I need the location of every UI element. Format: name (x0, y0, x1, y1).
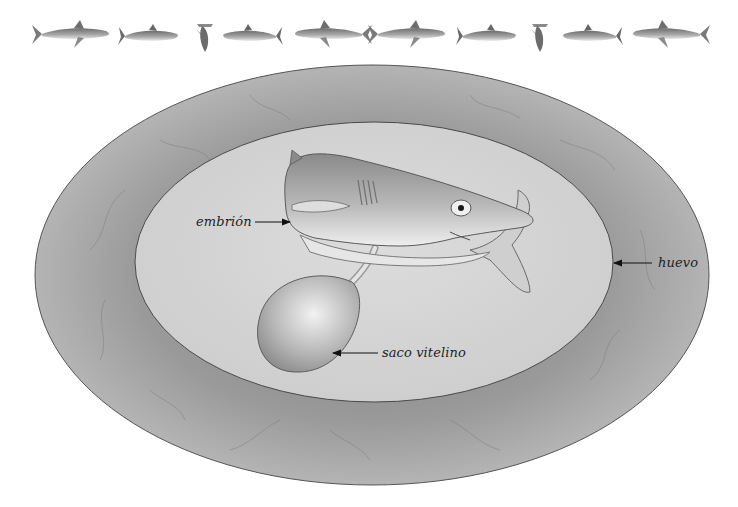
shark-icon (368, 20, 445, 48)
shark-icon (223, 24, 283, 45)
shark-icon (295, 20, 372, 48)
egg-label: huevo (658, 255, 698, 270)
shark-icon (456, 24, 516, 45)
yolk-sac-label: saco vitelino (382, 345, 466, 360)
shark-icon (32, 20, 109, 48)
shark-egg-diagram (0, 0, 738, 507)
hammerhead-shark-icon (530, 24, 548, 52)
shark-border (32, 20, 710, 52)
hammerhead-shark-icon (195, 24, 213, 52)
shark-icon (118, 24, 178, 45)
shark-icon (563, 24, 623, 45)
embryo-label: embrión (196, 214, 252, 229)
shark-icon (633, 20, 710, 48)
